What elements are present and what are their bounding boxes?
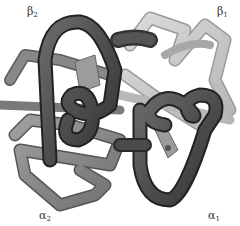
label-beta1: β1 — [217, 6, 228, 19]
label-alpha2-subscript: 2 — [46, 215, 50, 223]
label-beta2-subscript: 2 — [33, 11, 37, 19]
label-beta2: β2 — [27, 6, 38, 19]
label-alpha1: α1 — [208, 210, 220, 223]
label-beta1-subscript: 1 — [223, 11, 227, 19]
label-alpha1-subscript: 1 — [215, 215, 219, 223]
label-alpha2: α2 — [39, 210, 51, 223]
protein-tetramer-figure — [0, 0, 240, 226]
